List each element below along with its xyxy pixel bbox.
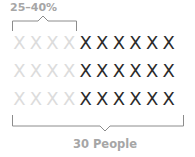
person-marker-dark: X [111,61,128,81]
person-marker-light: X [28,61,45,81]
person-marker-light: X [11,61,28,81]
person-marker-dark: X [160,61,177,81]
person-marker-dark: X [144,33,161,53]
person-marker-dark: X [94,33,111,53]
person-marker-dark: X [111,89,128,109]
person-marker-dark: X [127,33,144,53]
top-bracket [13,16,77,31]
people-row-3: X X X X X X X X X X [11,89,177,109]
person-marker-dark: X [111,33,128,53]
person-marker-dark: X [77,89,94,109]
person-marker-light: X [44,89,61,109]
total-people-label: 30 People [0,137,195,151]
person-marker-dark: X [94,89,111,109]
person-marker-light: X [61,89,78,109]
person-marker-dark: X [144,61,161,81]
bottom-bracket [13,115,184,131]
person-marker-light: X [28,33,45,53]
person-marker-light: X [61,33,78,53]
person-marker-light: X [61,61,78,81]
person-marker-dark: X [160,89,177,109]
person-marker-light: X [44,33,61,53]
person-marker-light: X [44,61,61,81]
people-row-1: X X X X X X X X X X [11,33,177,53]
person-marker-light: X [11,89,28,109]
person-marker-dark: X [77,33,94,53]
people-row-2: X X X X X X X X X X [11,61,177,81]
person-marker-dark: X [77,61,94,81]
person-marker-dark: X [127,89,144,109]
person-marker-light: X [11,33,28,53]
person-marker-dark: X [94,61,111,81]
person-marker-dark: X [144,89,161,109]
person-marker-dark: X [127,61,144,81]
person-marker-light: X [28,89,45,109]
person-marker-dark: X [160,33,177,53]
